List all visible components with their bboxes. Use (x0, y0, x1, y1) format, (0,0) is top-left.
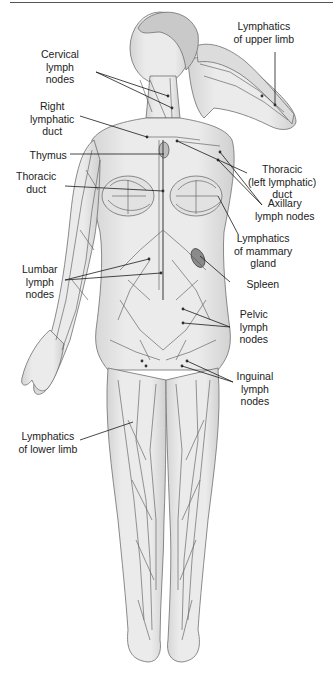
label-axillary: Axillary lymph nodes (255, 197, 315, 222)
label-lower-limb: Lymphatics of lower limb (19, 430, 78, 455)
label-lumbar: Lumbar lymph nodes (22, 263, 58, 301)
label-cervical: Cervical lymph nodes (41, 48, 79, 86)
thymus (159, 142, 169, 158)
label-inguinal: Inguinal lymph nodes (237, 370, 274, 408)
label-spleen: Spleen (247, 278, 280, 291)
label-thoracic-duct: Thoracic duct (16, 170, 56, 195)
hand (22, 330, 64, 391)
label-mammary: Lymphatics of mammary gland (234, 232, 292, 270)
right-leg (107, 368, 166, 662)
label-pelvic: Pelvic lymph nodes (240, 308, 269, 346)
label-thoracic-left: Thoracic (left lymphatic) duct (248, 163, 316, 201)
label-right-duct: Right lymphatic duct (30, 100, 74, 138)
label-thymus: Thymus (30, 149, 67, 162)
label-upper-limb: Lymphatics of upper limb (234, 20, 295, 45)
left-leg (166, 368, 219, 662)
